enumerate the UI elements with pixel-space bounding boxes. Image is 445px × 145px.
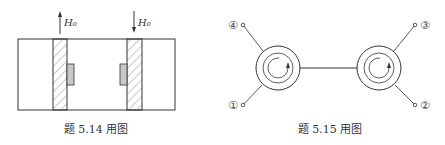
port-2-lead	[395, 85, 415, 105]
port-1-terminal-icon	[241, 103, 245, 107]
waveguide-body	[18, 39, 175, 110]
field-arrow-up-icon	[58, 11, 62, 34]
field-label-left: H₀	[63, 17, 77, 28]
figure-5-14: H₀ H₀	[18, 11, 175, 110]
port-label-1: ①	[228, 99, 238, 112]
right-ferrite-block	[120, 64, 127, 85]
field-label-right: H₀	[137, 17, 151, 28]
figure-caption-5-15: 题 5.15 用图	[298, 120, 363, 136]
port-4-lead	[243, 25, 263, 51]
port-label-3: ③	[420, 19, 430, 32]
port-1-lead	[243, 85, 262, 105]
port-label-2: ②	[420, 99, 430, 112]
port-3-terminal-icon	[413, 23, 417, 27]
left-circulator-icon	[256, 46, 300, 90]
right-circulator-icon	[357, 46, 401, 90]
field-arrow-down-icon	[132, 11, 136, 33]
port-3-lead	[394, 25, 415, 51]
port-label-4: ④	[228, 19, 238, 32]
left-ferrite-block	[67, 64, 74, 85]
figure-caption-5-14: 题 5.14 用图	[64, 120, 129, 136]
right-hatched-slab	[127, 39, 142, 110]
port-2-terminal-icon	[413, 103, 417, 107]
port-4-terminal-icon	[241, 23, 245, 27]
figure-5-15: ④ ① ③ ②	[228, 19, 430, 112]
left-hatched-slab	[53, 39, 67, 110]
